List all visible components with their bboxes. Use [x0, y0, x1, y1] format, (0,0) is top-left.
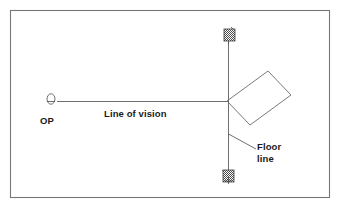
observer-head-symbol: [47, 94, 55, 104]
label-floor-line-second: line: [257, 153, 274, 164]
diagram-canvas: OP Line of vision Floor line: [0, 0, 340, 209]
diagram-frame: [11, 11, 330, 198]
label-line-of-vision: Line of vision: [104, 108, 167, 119]
diagram-svg: OP Line of vision Floor line: [0, 0, 340, 209]
tilted-rectangle: [227, 71, 291, 125]
floor-line-leader: [229, 134, 257, 149]
hatched-marker-bottom: [222, 170, 234, 184]
hatched-marker-top: [224, 27, 235, 44]
label-floor-line-first: Floor: [257, 141, 281, 152]
label-observer-point: OP: [40, 115, 54, 126]
